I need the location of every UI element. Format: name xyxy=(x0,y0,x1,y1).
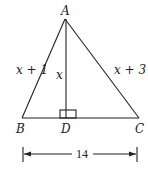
vertex-label-a: A xyxy=(60,4,70,18)
vertex-label-b: B xyxy=(15,122,25,136)
arrowhead-left-icon xyxy=(24,152,31,157)
dimension-line: 14 xyxy=(23,147,137,162)
vertex-label-c: C xyxy=(135,122,144,136)
arrowhead-right-icon xyxy=(129,152,136,157)
triangle-diagram: A B D C x + 1 x x + 3 14 xyxy=(0,0,148,176)
vertex-label-d: D xyxy=(60,122,71,136)
right-angle-marker xyxy=(60,110,76,118)
segment-label-ac: x + 3 xyxy=(114,63,146,77)
segment-label-ad: x xyxy=(56,68,63,82)
segment-label-ab: x + 1 xyxy=(16,63,48,77)
dimension-label: 14 xyxy=(76,147,88,161)
